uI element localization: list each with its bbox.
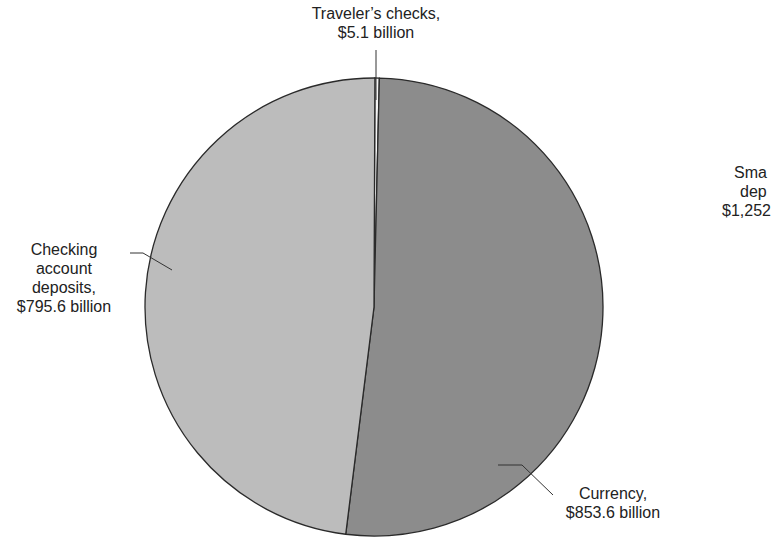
pie-slice-currency	[346, 78, 603, 536]
label-line: Traveler’s checks,	[300, 4, 452, 23]
label-line: Sma	[700, 163, 775, 182]
label-value: $5.1 billion	[300, 23, 452, 42]
label-line: dep	[700, 182, 775, 201]
label-line: Checking	[0, 240, 128, 259]
pie-slice-checking-account-deposits	[145, 78, 375, 534]
label-line: account	[0, 259, 128, 278]
label-value: $853.6 billion	[548, 503, 678, 522]
label-line: Currency,	[548, 484, 678, 503]
label-value: $795.6 billion	[0, 297, 128, 316]
label-line: deposits,	[0, 278, 128, 297]
label-currency: Currency, $853.6 billion	[548, 484, 678, 522]
label-value: $1,252	[700, 201, 775, 220]
label-checking-deposits: Checking account deposits, $795.6 billio…	[0, 240, 128, 316]
label-savings-partial: Sma dep $1,252	[700, 163, 775, 220]
label-travelers-checks: Traveler’s checks, $5.1 billion	[300, 4, 452, 42]
pie-slices	[145, 78, 603, 536]
